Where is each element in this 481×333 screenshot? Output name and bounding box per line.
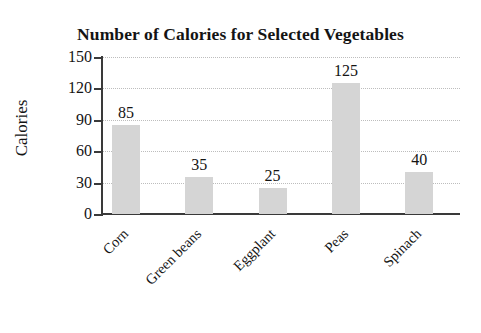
x-axis-category-label-text: Eggplant <box>230 226 278 274</box>
bar <box>332 83 360 214</box>
y-axis-tick <box>94 57 103 59</box>
y-axis-tick-label: 90 <box>32 112 92 128</box>
y-axis-tick <box>94 183 103 185</box>
bar <box>405 172 433 214</box>
bar <box>259 188 287 214</box>
bar-value-label: 125 <box>316 63 376 79</box>
gridline <box>103 57 460 58</box>
bar-value-label: 85 <box>96 105 156 121</box>
y-axis-tick <box>94 214 103 216</box>
x-axis-category-label-text: Green beans <box>143 226 205 288</box>
x-axis-category-label-text: Spinach <box>381 226 425 270</box>
bar-value-label: 35 <box>169 157 229 173</box>
bar <box>185 177 213 214</box>
gridline <box>103 120 460 121</box>
x-axis-category-label-text: Corn <box>100 226 131 257</box>
plot-area <box>103 57 460 214</box>
y-axis-tick-label: 30 <box>32 175 92 191</box>
x-axis-category-label-text: Peas <box>322 226 351 255</box>
bar-value-label: 25 <box>243 168 303 184</box>
bar-chart: Number of Calories for Selected Vegetabl… <box>0 0 481 333</box>
bar-value-label: 40 <box>389 152 449 168</box>
y-axis-tick-label: 120 <box>32 80 92 96</box>
bar <box>112 125 140 214</box>
y-axis-tick <box>94 151 103 153</box>
y-axis-tick-label: 0 <box>32 206 92 222</box>
gridline <box>103 88 460 89</box>
y-axis-tick-label: 150 <box>32 49 92 65</box>
y-axis-tick <box>94 88 103 90</box>
y-axis-tick-label: 60 <box>32 143 92 159</box>
